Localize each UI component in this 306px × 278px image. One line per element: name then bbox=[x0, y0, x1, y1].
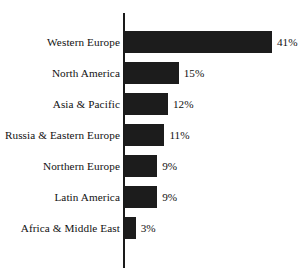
bar bbox=[125, 62, 179, 84]
category-label: Northern Europe bbox=[43, 155, 120, 177]
category-label: Latin America bbox=[54, 186, 120, 208]
bar-value-label: 11% bbox=[169, 124, 189, 146]
category-label: Africa & Middle East bbox=[21, 217, 120, 239]
bar-row: Latin America9% bbox=[0, 186, 306, 208]
category-label: Western Europe bbox=[47, 31, 120, 53]
category-label: North America bbox=[52, 62, 120, 84]
bar bbox=[125, 155, 157, 177]
plot-area: Western Europe41%North America15%Asia & … bbox=[0, 0, 306, 278]
category-label: Russia & Eastern Europe bbox=[5, 124, 120, 146]
bar-value-label: 41% bbox=[277, 31, 298, 53]
bar-value-label: 9% bbox=[162, 155, 177, 177]
bar-row: Western Europe41% bbox=[0, 31, 306, 53]
bar-value-label: 12% bbox=[173, 93, 194, 115]
bar bbox=[125, 93, 168, 115]
bar-row: Russia & Eastern Europe11% bbox=[0, 124, 306, 146]
bar-value-label: 3% bbox=[141, 217, 156, 239]
bar bbox=[125, 186, 157, 208]
bar-row: Northern Europe9% bbox=[0, 155, 306, 177]
horizontal-bar-chart: Western Europe41%North America15%Asia & … bbox=[0, 0, 306, 278]
bar-row: Asia & Pacific12% bbox=[0, 93, 306, 115]
bar-row: Africa & Middle East3% bbox=[0, 217, 306, 239]
category-label: Asia & Pacific bbox=[53, 93, 120, 115]
bar-value-label: 9% bbox=[162, 186, 177, 208]
bar-row: North America15% bbox=[0, 62, 306, 84]
bar bbox=[125, 124, 164, 146]
bar bbox=[125, 31, 272, 53]
bar bbox=[125, 217, 136, 239]
bar-value-label: 15% bbox=[184, 62, 205, 84]
